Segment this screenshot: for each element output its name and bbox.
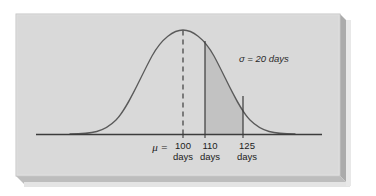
tick-label-110-value: 110	[202, 140, 217, 151]
mu-symbol-label: μ =	[151, 141, 168, 153]
panel-shadow-soft-right	[346, 20, 351, 186]
tick-label-125-value: 125	[239, 140, 255, 151]
tick-label-100-value: 100	[175, 140, 191, 151]
normal-distribution-figure: σ = 20 days μ = 100 days 110 days 125 da…	[0, 0, 376, 196]
sigma-annotation-label: σ = 20 days	[239, 53, 289, 64]
tick-label-110-unit: days	[200, 151, 220, 162]
figure-container: σ = 20 days μ = 100 days 110 days 125 da…	[0, 0, 376, 196]
tick-label-100-unit: days	[173, 151, 193, 162]
tick-label-125-unit: days	[237, 151, 257, 162]
panel-shadow-soft	[24, 182, 350, 187]
